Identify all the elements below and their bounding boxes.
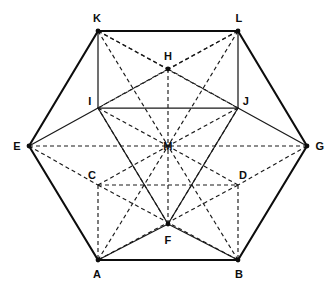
edge-G-L	[238, 31, 307, 146]
edge-J-F	[168, 108, 238, 224]
vertex-label-i: I	[88, 96, 91, 107]
vertex-label-a: A	[93, 269, 101, 280]
vertex-dot-g	[305, 144, 310, 149]
edge-I-M	[98, 108, 168, 146]
vertex-dot-e	[27, 144, 32, 149]
vertex-dot-a	[96, 258, 101, 263]
edge-B-F	[168, 224, 238, 260]
vertex-dot-b	[236, 258, 241, 263]
edge-I-F	[98, 108, 168, 224]
edge-A-F	[98, 224, 168, 260]
edge-G-D	[238, 146, 307, 185]
vertex-label-b: B	[235, 269, 243, 280]
vertex-label-f: F	[165, 235, 172, 246]
vertex-label-c: C	[88, 170, 96, 181]
vertex-dot-k	[96, 29, 101, 34]
vertex-label-j: J	[243, 96, 249, 107]
geometric-figure: ABCDEFGHIJKLM	[0, 0, 332, 286]
edge-J-M	[168, 108, 238, 146]
edge-K-H	[98, 31, 168, 69]
vertex-dot-f	[166, 222, 171, 227]
vertex-label-g: G	[316, 141, 325, 152]
vertex-label-l: L	[236, 13, 243, 24]
vertex-label-m: M	[163, 141, 172, 152]
vertex-dot-l	[236, 29, 241, 34]
vertex-label-k: K	[93, 13, 101, 24]
edge-A-M	[98, 146, 168, 260]
vertex-label-e: E	[13, 141, 21, 152]
vertex-dot-h	[166, 67, 171, 72]
vertex-label-d: D	[239, 170, 247, 181]
vertex-label-h: H	[164, 51, 172, 62]
edge-B-G	[238, 146, 307, 260]
edge-L-H	[168, 31, 238, 69]
edge-B-M	[168, 146, 238, 260]
edge-E-A	[29, 146, 98, 260]
edge-K-E	[29, 31, 98, 146]
